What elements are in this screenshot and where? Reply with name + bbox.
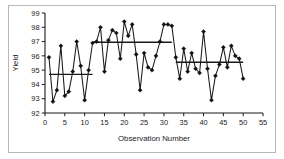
data-point-marker	[102, 69, 106, 73]
data-point-marker	[158, 39, 162, 43]
yield-series-line	[49, 22, 243, 102]
data-point-marker	[221, 45, 225, 49]
x-tick-label: 30	[160, 118, 168, 127]
data-point-marker	[154, 54, 158, 58]
y-tick-label: 93	[31, 94, 39, 103]
data-point-marker	[51, 99, 55, 103]
x-tick-labels: 0510152025303540455055	[43, 118, 267, 127]
data-point-marker	[59, 44, 63, 48]
data-point-marker	[229, 44, 233, 48]
data-point-marker	[118, 57, 122, 61]
data-point-marker	[213, 74, 217, 78]
y-tick-label: 99	[31, 9, 39, 18]
run-chart: 9293949596979899 0510152025303540455055 …	[0, 0, 284, 159]
data-point-marker	[182, 47, 186, 51]
data-point-marker	[83, 98, 87, 102]
data-point-marker	[130, 22, 134, 26]
data-point-marker	[47, 55, 51, 59]
data-point-marker	[186, 69, 190, 73]
x-axis-title: Observation Number	[118, 134, 190, 143]
data-point-marker	[166, 22, 170, 26]
x-tick-label: 25	[140, 118, 148, 127]
y-tick-label: 92	[31, 109, 39, 118]
data-point-marker	[134, 52, 138, 56]
x-tick-label: 15	[100, 118, 108, 127]
x-tick-label: 35	[180, 118, 188, 127]
data-point-marker	[170, 24, 174, 28]
x-tick-label: 50	[239, 118, 247, 127]
y-tick-label: 95	[31, 66, 39, 75]
y-tick-label: 96	[31, 52, 39, 61]
data-point-marker	[241, 77, 245, 81]
data-point-marker	[94, 39, 98, 43]
data-point-marker	[225, 65, 229, 69]
data-point-marker	[55, 88, 59, 92]
y-tick-label: 97	[31, 37, 39, 46]
data-point-marker	[122, 19, 126, 23]
data-point-marker	[201, 29, 205, 33]
data-point-marker	[138, 88, 142, 92]
data-point-marker	[174, 55, 178, 59]
data-point-marker	[209, 98, 213, 102]
data-point-marker	[142, 51, 146, 55]
y-axis-title: Yield	[11, 54, 20, 71]
x-tick-label: 10	[81, 118, 89, 127]
y-tick-labels: 9293949596979899	[31, 9, 39, 118]
data-point-marker	[71, 69, 75, 73]
data-point-marker	[75, 39, 79, 43]
chart-figure: 9293949596979899 0510152025303540455055 …	[0, 0, 284, 159]
data-point-marker	[178, 77, 182, 81]
data-point-marker	[79, 64, 83, 68]
data-point-marker	[205, 67, 209, 71]
data-point-marker	[126, 34, 130, 38]
y-tick-label: 94	[31, 80, 39, 89]
x-tick-label: 40	[199, 118, 207, 127]
data-point-marker	[87, 68, 91, 72]
data-point-marker	[98, 25, 102, 29]
x-tick-label: 0	[43, 118, 47, 127]
x-tick-label: 5	[63, 118, 67, 127]
x-tick-label: 45	[219, 118, 227, 127]
data-point-marker	[90, 41, 94, 45]
data-point-marker	[162, 22, 166, 26]
data-point-marker	[190, 51, 194, 55]
x-tick-label: 55	[259, 118, 267, 127]
x-tick-label: 20	[120, 118, 128, 127]
y-tick-label: 98	[31, 23, 39, 32]
